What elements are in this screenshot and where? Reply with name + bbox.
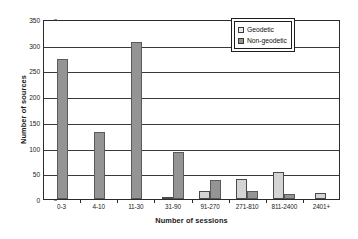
y-axis-tick-label: 100 <box>14 145 40 152</box>
x-axis-tick-label: 0-3 <box>43 203 80 215</box>
y-axis-tick-label: 50 <box>14 171 40 178</box>
x-axis-tick-label: 4-10 <box>80 203 117 215</box>
bar-non-geodetic <box>210 180 221 199</box>
bar-chart-figure: Number of sources 050100150200250300350 … <box>0 0 358 239</box>
legend-inner: GeodeticNon-geodetic <box>234 21 292 49</box>
y-axis-tick-label: 300 <box>14 42 40 49</box>
bar-group <box>118 21 155 199</box>
legend: GeodeticNon-geodetic <box>231 18 295 52</box>
bar-geodetic <box>199 191 210 199</box>
x-axis-tick-label: 271-810 <box>229 203 266 215</box>
bar-non-geodetic <box>131 42 142 199</box>
bar-non-geodetic <box>247 191 258 199</box>
x-axis-tick-mark <box>192 200 193 203</box>
x-axis-tick-label: 31-90 <box>154 203 191 215</box>
x-axis-tick-label: 811-2400 <box>266 203 303 215</box>
bar-group <box>44 21 81 199</box>
plot-area <box>43 20 340 200</box>
y-axis-tick-label: 150 <box>14 119 40 126</box>
bar-group <box>302 21 339 199</box>
bar-group <box>81 21 118 199</box>
x-axis-tick-mark <box>266 200 267 203</box>
bar-non-geodetic <box>57 59 68 199</box>
bar-group <box>155 21 192 199</box>
x-axis-tick-mark <box>229 200 230 203</box>
bar-geodetic <box>315 193 326 199</box>
y-axis-tick-label: 200 <box>14 94 40 101</box>
bar-non-geodetic <box>173 152 184 199</box>
x-axis-title: Number of sessions <box>43 216 340 225</box>
x-axis-tick-label: 11-30 <box>117 203 154 215</box>
x-axis-tick-label: 2401+ <box>303 203 340 215</box>
y-axis-tick-label: 0 <box>14 197 40 204</box>
bar-geodetic <box>236 179 247 199</box>
y-axis-tick-labels: 050100150200250300350 <box>14 14 40 200</box>
bar-non-geodetic <box>284 194 295 199</box>
bar-non-geodetic <box>94 132 105 199</box>
legend-item: Non-geodetic <box>238 35 287 46</box>
x-axis-tick-mark <box>80 200 81 203</box>
y-axis-tick-label: 250 <box>14 68 40 75</box>
non-geodetic-swatch <box>238 38 244 44</box>
x-axis-tick-mark <box>303 200 304 203</box>
x-axis-tick-labels: 0-34-1011-3031-9091-270271-810811-240024… <box>43 203 340 215</box>
y-axis-tick-label: 350 <box>14 17 40 24</box>
x-axis-tick-mark <box>154 200 155 203</box>
bar-group <box>192 21 229 199</box>
x-axis-tick-label: 91-270 <box>192 203 229 215</box>
bar-geodetic <box>162 197 173 199</box>
legend-item-label: Non-geodetic <box>247 37 287 44</box>
legend-item-label: Geodetic <box>247 26 274 33</box>
legend-item: Geodetic <box>238 24 287 35</box>
x-axis-tick-mark <box>117 200 118 203</box>
geodetic-swatch <box>238 27 244 33</box>
bar-geodetic <box>273 172 284 199</box>
